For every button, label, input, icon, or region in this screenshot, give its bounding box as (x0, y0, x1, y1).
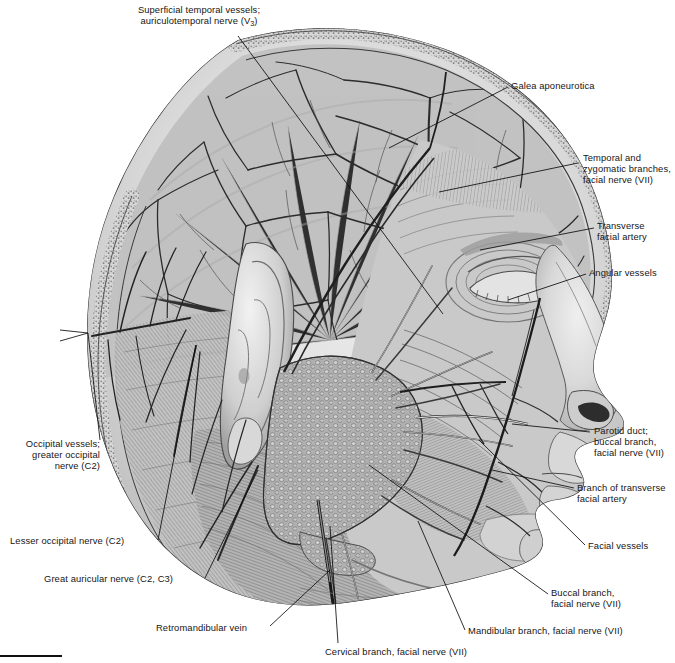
label-angular-vessels[interactable]: Angular vessels (589, 267, 675, 278)
label-facial-vessels[interactable]: Facial vessels (588, 540, 668, 551)
label-superficial-temporal-vessels[interactable]: Superficial temporal vessels;auriculotem… (104, 4, 294, 29)
label-lesser-occipital-nerve[interactable]: Lesser occipital nerve (C2) (10, 535, 160, 546)
label-temporal-zygomatic-branches[interactable]: Temporal and zygomatic branches, facial … (583, 152, 675, 186)
label-retromandibular-vein[interactable]: Retromandibular vein (156, 622, 276, 633)
label-mandibular-branch[interactable]: Mandibular branch, facial nerve (VII) (468, 625, 668, 636)
label-galea-aponeurotica[interactable]: Galea aponeurotica (511, 80, 661, 91)
label-great-auricular-nerve[interactable]: Great auricular nerve (C2, C3) (44, 573, 214, 584)
label-transverse-facial-artery[interactable]: Transverse facial artery (597, 220, 675, 242)
label-buccal-branch[interactable]: Buccal branch, facial nerve (VII) (551, 587, 641, 609)
label-parotid-duct-buccal-branch[interactable]: Parotid duct; buccal branch, facial nerv… (594, 425, 675, 459)
label-line-2-tail: ) (254, 15, 257, 26)
label-line-1: Superficial temporal vessels; (138, 4, 260, 15)
label-occipital-vessels[interactable]: Occipital vessels; greater occipital ner… (8, 438, 100, 472)
label-cervical-branch[interactable]: Cervical branch, facial nerve (VII) (325, 646, 521, 657)
label-branch-transverse-facial-artery[interactable]: Branch of transverse facial artery (577, 482, 673, 504)
footer-rule (0, 655, 62, 657)
label-line-2: auriculotemporal nerve (V (140, 15, 250, 26)
